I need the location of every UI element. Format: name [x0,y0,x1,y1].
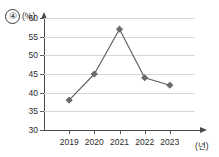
data-point-marker [142,75,148,81]
x-tick-label: 2019 [60,137,79,147]
data-point-marker [167,82,173,88]
chart-figure: ④ (%) (년) 30354045505560 201920202021202… [0,0,219,157]
y-tick-label: 35 [29,106,38,116]
series-line [69,29,170,100]
x-tick-label: 2023 [160,137,179,147]
x-tick [69,130,70,134]
x-axis-arrowhead [200,127,207,133]
y-tick-label: 60 [29,13,38,23]
data-point-marker [116,26,122,32]
x-tick-label: 2020 [85,137,104,147]
series-markers [66,26,173,103]
x-tick-label: 2022 [135,137,154,147]
x-tick [170,130,171,134]
x-tick [94,130,95,134]
x-tick-label: 2021 [110,137,129,147]
choice-number-badge: ④ [5,9,20,24]
x-tick [145,130,146,134]
x-tick [120,130,121,134]
y-tick-label: 50 [29,50,38,60]
y-tick-label: 45 [29,69,38,79]
y-tick-label: 55 [29,32,38,42]
y-tick-label: 30 [29,125,38,135]
x-axis-unit-label: (년) [195,139,209,151]
plot-area: 30354045505560 20192020202120222023 [44,18,195,130]
data-series [44,18,195,130]
y-tick [40,130,44,131]
x-axis-line [44,130,202,131]
y-tick-label: 40 [29,88,38,98]
